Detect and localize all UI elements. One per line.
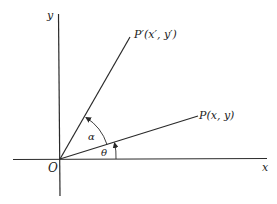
alpha-label: α: [88, 131, 95, 142]
y-axis: [59, 14, 61, 196]
origin-label: O: [48, 161, 58, 175]
x-axis: [13, 159, 267, 160]
rotation-diagram: y x O P′(x′, y′) P(x, y) α θ: [0, 0, 277, 204]
point-p-label: P(x, y): [198, 109, 234, 122]
theta-label: θ: [101, 147, 107, 158]
point-p-prime-label: P′(x′, y′): [133, 28, 177, 41]
x-axis-label: x: [262, 161, 269, 174]
y-axis-label: y: [46, 9, 54, 22]
theta-arc: [115, 143, 117, 159]
